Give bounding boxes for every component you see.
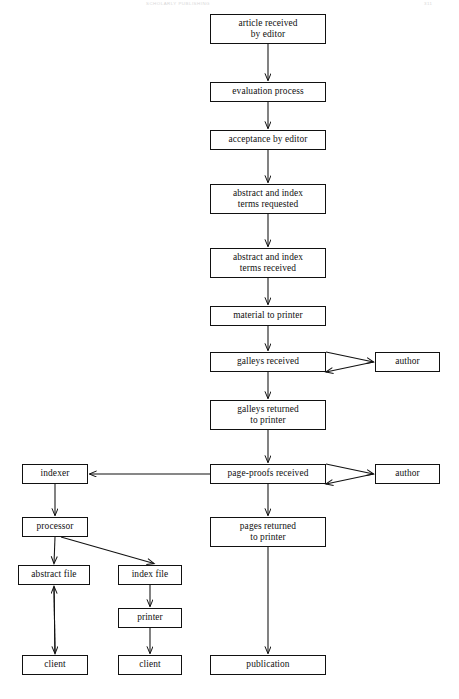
node-author_proofs: author [375,464,440,484]
node-label: publication [244,659,291,670]
node-label: material to printer [231,310,305,321]
page-number: 311 [424,1,433,6]
node-processor: processor [22,517,88,537]
node-printer: printer [118,608,182,628]
node-label: client [42,659,67,670]
node-label: pages returned to printer [238,521,298,544]
node-page_proofs: page-proofs received [210,464,326,484]
node-client_abstract: client [22,655,88,675]
node-label: galleys received [235,356,301,367]
node-terms_received: abstract and index terms received [210,248,326,278]
node-label: author [393,356,422,367]
flowchart-connectors-layer [0,0,459,699]
node-index_file: index file [118,565,182,585]
node-pages_returned: pages returned to printer [210,517,326,547]
node-label: indexer [39,468,72,479]
node-label: printer [135,612,165,623]
node-indexer: indexer [22,464,88,484]
edge-page_proofs-to-author_proofs [326,464,374,484]
node-label: client [137,659,162,670]
edge-processor-to-index_file [61,537,154,564]
node-article_received: article received by editor [210,14,326,44]
node-client_index: client [118,655,182,675]
node-label: page-proofs received [226,468,311,479]
edge-processor-to-abstract_file [54,537,55,564]
node-label: article received by editor [236,18,299,41]
node-label: evaluation process [230,86,305,97]
node-terms_requested: abstract and index terms requested [210,184,326,214]
node-author_galleys: author [375,352,440,372]
node-label: abstract and index terms requested [231,188,305,211]
node-publication: publication [210,655,326,675]
node-acceptance: acceptance by editor [210,130,326,150]
node-label: author [393,468,422,479]
edge-galleys_received-to-author_galleys [326,352,374,372]
node-label: abstract and index terms received [231,252,305,275]
node-label: abstract file [29,569,78,580]
edge-abstract_file-to-client_abstract [54,587,55,654]
node-label: acceptance by editor [226,134,309,145]
flowchart-page: SCHOLARLY PUBLISHING 311 article receive… [0,0,459,699]
node-label: galleys returned to printer [235,404,301,427]
node-galleys_returned: galleys returned to printer [210,400,326,430]
node-label: index file [130,569,171,580]
page-running-head: SCHOLARLY PUBLISHING [146,1,210,6]
node-galleys_received: galleys received [210,352,326,372]
node-material_printer: material to printer [210,306,326,326]
node-abstract_file: abstract file [18,565,90,585]
node-evaluation: evaluation process [210,82,326,102]
node-label: processor [35,521,76,532]
